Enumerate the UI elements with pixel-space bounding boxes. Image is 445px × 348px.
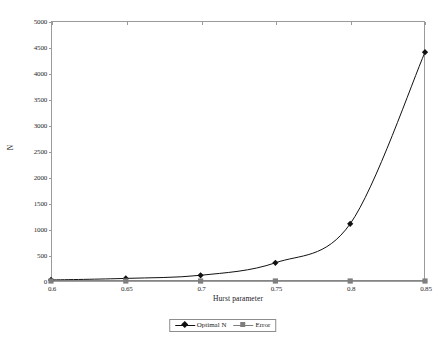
chart-container: N 05001000150020002500300035004000450050… bbox=[0, 0, 445, 348]
legend-label-optimal-n: Optimal N bbox=[197, 321, 227, 329]
y-axis-tick-mark bbox=[49, 126, 52, 127]
x-axis-tick-mark bbox=[202, 22, 203, 25]
x-axis-tick-label: 0.65 bbox=[121, 280, 132, 293]
x-axis-title: Hurst parameter bbox=[51, 294, 425, 303]
x-axis-tick-label: 0.8 bbox=[347, 280, 355, 293]
x-axis-tick-mark bbox=[425, 22, 426, 25]
y-axis-tick-mark bbox=[49, 204, 52, 205]
y-axis-tick-mark bbox=[49, 178, 52, 179]
legend-label-error: Error bbox=[255, 321, 270, 329]
plot-area: 0500100015002000250030003500400045005000… bbox=[51, 21, 425, 281]
legend-swatch-optimal-n bbox=[175, 321, 195, 329]
x-axis-tick-label: 0.7 bbox=[198, 280, 206, 293]
y-axis-tick-mark bbox=[49, 256, 52, 257]
x-axis-tick-mark bbox=[52, 22, 53, 25]
legend-entry-optimal-n[interactable]: Optimal N bbox=[175, 321, 227, 329]
y-axis-tick-mark bbox=[49, 230, 52, 231]
legend-swatch-error bbox=[233, 321, 253, 329]
x-axis-tick-label: 0.85 bbox=[420, 280, 431, 293]
x-axis-tick-mark bbox=[276, 22, 277, 25]
y-axis-tick-mark bbox=[49, 74, 52, 75]
y-axis-title: N bbox=[6, 145, 15, 150]
y-axis-tick-mark bbox=[49, 152, 52, 153]
square-marker-icon bbox=[240, 322, 245, 327]
x-axis-tick-mark bbox=[127, 22, 128, 25]
legend-entry-error[interactable]: Error bbox=[233, 321, 270, 329]
y-axis-tick-mark bbox=[49, 48, 52, 49]
x-axis-tick-label: 0.6 bbox=[48, 280, 56, 293]
chart-legend: Optimal N Error bbox=[169, 319, 277, 332]
diamond-marker-icon bbox=[181, 321, 188, 328]
x-axis-tick-mark bbox=[351, 22, 352, 25]
y-axis-tick-mark bbox=[49, 100, 52, 101]
x-axis-tick-label: 0.75 bbox=[271, 280, 282, 293]
